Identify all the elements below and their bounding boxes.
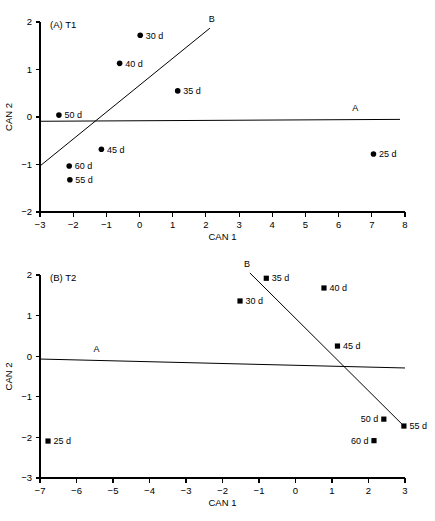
data-point-marker[interactable] xyxy=(237,298,242,303)
vector-line-A xyxy=(40,119,400,121)
x-tick-label: 0 xyxy=(137,219,142,230)
y-tick-label: 0 xyxy=(27,351,32,362)
y-axis-ticks: −3−2−1012 xyxy=(21,269,40,483)
x-tick-label: 3 xyxy=(402,485,407,496)
data-point-marker[interactable] xyxy=(45,438,50,443)
y-axis-title: CAN 2 xyxy=(3,363,14,391)
panel-b-t2: −7−6−5−4−3−2−10123−3−2−1012CAN 1CAN 2(B)… xyxy=(0,250,435,521)
data-point-marker[interactable] xyxy=(66,163,72,169)
data-point-label: 45 d xyxy=(107,145,125,155)
vector-label-B: B xyxy=(209,14,215,24)
x-axis-ticks: −3−2−1012345678 xyxy=(35,212,408,230)
data-point-marker[interactable] xyxy=(67,177,73,183)
x-tick-label: 5 xyxy=(303,219,308,230)
x-tick-label: 2 xyxy=(366,485,371,496)
data-point-marker[interactable] xyxy=(99,147,105,153)
vector-label-A: A xyxy=(352,103,358,113)
data-point-label: 45 d xyxy=(343,341,361,351)
data-point-marker[interactable] xyxy=(264,276,269,281)
y-axis-ticks: −2−1012 xyxy=(21,16,40,217)
vector-line-B xyxy=(250,273,404,426)
y-tick-label: 1 xyxy=(27,64,32,75)
y-tick-label: 2 xyxy=(27,269,32,280)
x-tick-label: −1 xyxy=(101,219,112,230)
figure-container: −3−2−1012345678−2−1012CAN 1CAN 2(A) T1AB… xyxy=(0,0,435,521)
data-points: 25 d30 d35 d40 d45 d50 d55 d60 d xyxy=(56,31,396,185)
vector-line-A xyxy=(40,359,405,368)
x-axis-title: CAN 1 xyxy=(209,497,237,508)
x-tick-label: −1 xyxy=(254,485,265,496)
x-tick-label: 3 xyxy=(236,219,241,230)
panel-a-t1: −3−2−1012345678−2−1012CAN 1CAN 2(A) T1AB… xyxy=(0,0,435,250)
x-tick-label: 7 xyxy=(369,219,374,230)
x-tick-label: −2 xyxy=(217,485,228,496)
data-point-marker[interactable] xyxy=(117,61,123,67)
data-point-marker[interactable] xyxy=(371,151,377,157)
data-point-label: 55 d xyxy=(409,421,427,431)
panel-label-B: (B) T2 xyxy=(50,272,76,283)
data-point-label: 60 d xyxy=(351,436,369,446)
data-point-marker[interactable] xyxy=(321,285,326,290)
x-tick-label: −7 xyxy=(35,485,46,496)
y-tick-label: −1 xyxy=(21,159,32,170)
data-point-label: 35 d xyxy=(183,86,201,96)
x-tick-label: −3 xyxy=(35,219,46,230)
y-tick-label: −2 xyxy=(21,432,32,443)
data-point-label: 40 d xyxy=(329,283,347,293)
x-tick-label: 4 xyxy=(270,219,275,230)
plot-A: −3−2−1012345678−2−1012CAN 1CAN 2(A) T1AB… xyxy=(3,14,408,242)
data-point-label: 25 d xyxy=(379,149,397,159)
data-point-label: 50 d xyxy=(361,414,379,424)
data-point-label: 25 d xyxy=(54,436,72,446)
data-point-marker[interactable] xyxy=(56,112,62,118)
data-points: 25 d30 d35 d40 d45 d50 d55 d60 d xyxy=(45,273,427,446)
data-point-marker[interactable] xyxy=(371,438,376,443)
data-point-label: 30 d xyxy=(246,296,264,306)
data-point-label: 55 d xyxy=(75,175,93,185)
data-point-label: 60 d xyxy=(75,161,93,171)
x-axis-ticks: −7−6−5−4−3−2−10123 xyxy=(35,478,408,496)
vector-group: AB xyxy=(40,14,400,165)
x-tick-label: 1 xyxy=(329,485,334,496)
data-point-marker[interactable] xyxy=(137,33,143,39)
x-tick-label: 8 xyxy=(402,219,407,230)
panel-label-A: (A) T1 xyxy=(50,19,76,30)
data-point-marker[interactable] xyxy=(401,423,406,428)
x-tick-label: −4 xyxy=(144,485,155,496)
y-tick-label: 1 xyxy=(27,310,32,321)
data-point-label: 40 d xyxy=(125,59,143,69)
panel-b-svg: −7−6−5−4−3−2−10123−3−2−1012CAN 1CAN 2(B)… xyxy=(0,250,435,521)
y-tick-label: 2 xyxy=(27,16,32,27)
y-tick-label: −1 xyxy=(21,391,32,402)
data-point-label: 50 d xyxy=(64,110,82,120)
x-tick-label: 0 xyxy=(293,485,298,496)
plot-B: −7−6−5−4−3−2−10123−3−2−1012CAN 1CAN 2(B)… xyxy=(3,259,427,508)
x-tick-label: −6 xyxy=(71,485,82,496)
data-point-marker[interactable] xyxy=(381,417,386,422)
vector-line-B xyxy=(41,28,210,165)
data-point-label: 35 d xyxy=(272,273,290,283)
y-tick-label: −3 xyxy=(21,472,32,483)
x-tick-label: 2 xyxy=(203,219,208,230)
data-point-marker[interactable] xyxy=(335,343,340,348)
panel-a-svg: −3−2−1012345678−2−1012CAN 1CAN 2(A) T1AB… xyxy=(0,0,435,250)
x-axis-title: CAN 1 xyxy=(209,231,237,242)
y-axis-title: CAN 2 xyxy=(3,103,14,131)
data-point-label: 30 d xyxy=(146,31,164,41)
vector-label-A: A xyxy=(94,344,100,354)
vector-label-B: B xyxy=(244,259,250,269)
x-tick-label: 6 xyxy=(336,219,341,230)
data-point-marker[interactable] xyxy=(175,88,181,94)
x-tick-label: −2 xyxy=(68,219,79,230)
y-tick-label: 0 xyxy=(27,111,32,122)
x-tick-label: −3 xyxy=(181,485,192,496)
y-tick-label: −2 xyxy=(21,206,32,217)
x-tick-label: 1 xyxy=(170,219,175,230)
x-tick-label: −5 xyxy=(108,485,119,496)
